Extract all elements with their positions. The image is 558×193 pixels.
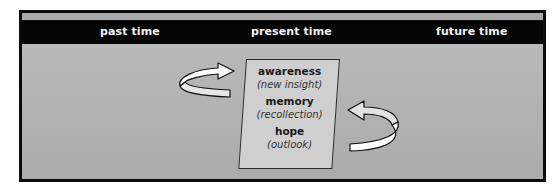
header-label-future: future time bbox=[436, 25, 507, 38]
header-label-present: present time bbox=[251, 25, 332, 38]
box-entry-awareness: awareness (new insight) bbox=[244, 65, 336, 91]
desc-new-insight: (new insight) bbox=[244, 78, 336, 91]
header-band: past time present time future time bbox=[22, 21, 543, 44]
header-label-past: past time bbox=[100, 25, 160, 38]
box-entry-hope: hope (outlook) bbox=[244, 125, 336, 151]
desc-outlook: (outlook) bbox=[244, 138, 336, 151]
present-time-box: awareness (new insight) memory (recollec… bbox=[238, 59, 340, 169]
desc-recollection: (recollection) bbox=[244, 108, 336, 121]
term-hope: hope bbox=[244, 125, 336, 138]
timeline-body: awareness (new insight) memory (recollec… bbox=[22, 44, 543, 179]
term-awareness: awareness bbox=[244, 65, 336, 78]
box-entry-memory: memory (recollection) bbox=[244, 95, 336, 121]
diagram-frame: past time present time future time aware… bbox=[19, 10, 546, 182]
term-memory: memory bbox=[244, 95, 336, 108]
top-strip bbox=[22, 13, 543, 21]
curved-arrow-left-icon bbox=[344, 98, 404, 154]
curved-arrow-right-icon bbox=[172, 60, 238, 102]
